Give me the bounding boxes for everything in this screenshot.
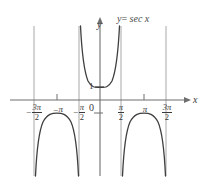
fraction: π2: [118, 103, 124, 121]
x-tick-label-pi-over-2: π2: [113, 103, 129, 121]
x-tick-label-3pi-over-2: 3π2: [156, 103, 178, 121]
fraction-denominator: 2: [32, 113, 43, 122]
x-tick-label-pi: π: [138, 104, 152, 114]
y-tick-label-1: 1: [89, 81, 94, 91]
fraction-denominator: 2: [162, 113, 173, 122]
pi-symbol: π: [143, 104, 148, 114]
equation-rhs: sec x: [130, 13, 150, 24]
sec-branch-right-down: [123, 113, 166, 176]
sec-branch-left-down: [36, 113, 79, 176]
figure-canvas: y= sec x y x 0 1 −3π2 −π −π2 π2 π 3π2: [0, 0, 206, 185]
y-axis: [97, 17, 103, 176]
x-tick-label-neg-pi-over-2: −π2: [65, 103, 93, 121]
equation-relation: =: [121, 13, 127, 24]
graph-svg: [0, 0, 206, 185]
x-axis-label: x: [193, 95, 197, 105]
fraction: π2: [79, 103, 85, 121]
x-tick-label-neg-3pi-over-2: −3π2: [19, 103, 49, 121]
fraction: 3π2: [162, 103, 173, 121]
pi-symbol: π: [59, 104, 64, 114]
fraction: 3π2: [32, 103, 43, 121]
equation-label: y= sec x: [117, 13, 149, 24]
y-axis-label: y: [97, 20, 101, 30]
fraction-denominator: 2: [118, 113, 124, 122]
fraction-denominator: 2: [79, 113, 85, 122]
